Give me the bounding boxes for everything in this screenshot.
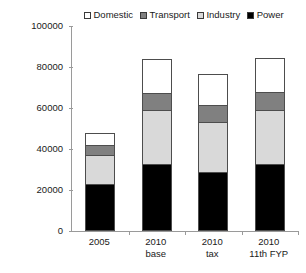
bar-segment-power (142, 164, 172, 231)
legend-swatch-domestic (84, 12, 91, 19)
y-axis-tick (69, 67, 73, 68)
bar-segment-power (85, 184, 115, 231)
legend-label-domestic: Domestic (94, 10, 134, 20)
x-axis-label-line1: 2010 (202, 236, 223, 247)
y-axis-tick (69, 149, 73, 150)
bar-stack (142, 59, 172, 231)
legend-item-transport: Transport (140, 10, 190, 20)
legend-swatch-transport (140, 12, 147, 19)
legend-item-domestic: Domestic (84, 10, 133, 20)
y-axis-tick-label: 40000 (37, 144, 63, 154)
y-axis-tick (69, 26, 73, 27)
bar-segment-power (198, 172, 228, 231)
x-axis-tick (242, 231, 243, 235)
x-axis-labels: 20052010base2010tax201011th FYP (71, 236, 297, 270)
y-axis-tick-label: 80000 (37, 62, 63, 72)
y-axis-tick-label: 0 (58, 226, 63, 236)
bar-segment-transport (198, 105, 228, 122)
bar-segment-transport (85, 145, 115, 155)
legend-swatch-industry (197, 12, 204, 19)
bar-segment-industry (255, 110, 285, 164)
x-axis-tick (298, 231, 299, 235)
y-axis-tick (69, 108, 73, 109)
y-axis-tick-label: 20000 (37, 185, 63, 195)
legend-label-industry: Industry (206, 10, 240, 20)
bar-segment-domestic (255, 58, 285, 92)
bar-segment-domestic (142, 59, 172, 93)
x-axis-label: 201011th FYP (232, 236, 306, 260)
y-axis-tick-label: 60000 (37, 103, 63, 113)
bar-segment-transport (255, 92, 285, 110)
x-axis-label-line1: 2005 (89, 236, 110, 247)
x-axis-label-line2: 11th FYP (232, 248, 306, 260)
plot-area (71, 26, 298, 232)
bar-segment-domestic (85, 133, 115, 145)
bar-segment-industry (85, 155, 115, 184)
bar-segment-industry (142, 110, 172, 164)
bar-segment-industry (198, 122, 228, 172)
bar-segment-power (255, 164, 285, 231)
chart-legend: Domestic Transport Industry Power (84, 8, 304, 22)
x-axis-label-line1: 2010 (258, 236, 279, 247)
x-axis-label-line1: 2010 (145, 236, 166, 247)
bar-segment-transport (142, 93, 172, 110)
legend-item-industry: Industry (197, 10, 240, 20)
legend-label-transport: Transport (150, 10, 190, 20)
y-axis-tick (69, 190, 73, 191)
legend-label-power: Power (257, 10, 284, 20)
bars-container (72, 26, 298, 231)
x-axis-tick (185, 231, 186, 235)
x-axis-tick (129, 231, 130, 235)
bar-segment-domestic (198, 74, 228, 105)
bar-stack (255, 58, 285, 231)
legend-item-power: Power (247, 10, 283, 20)
y-axis-tick-label: 100000 (31, 21, 63, 31)
bar-stack (198, 74, 228, 231)
y-axis-tick (69, 231, 73, 232)
bar-stack (85, 133, 115, 231)
legend-swatch-power (247, 12, 254, 19)
stacked-bar-chart: Domestic Transport Industry Power Energy… (0, 0, 306, 273)
y-axis-labels: 100000800006000040000200000 (0, 26, 68, 231)
